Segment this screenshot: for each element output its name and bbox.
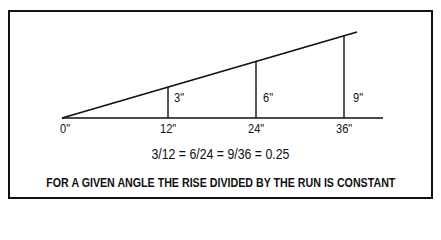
run-label-24: 24" [248, 121, 264, 136]
ratio-equation: 3/12 = 6/24 = 9/36 = 0.25 [0, 146, 441, 162]
run-label-0: 0" [60, 121, 70, 136]
caption-text: FOR A GIVEN ANGLE THE RISE DIVIDED BY TH… [46, 175, 395, 190]
run-label-12: 12" [160, 121, 176, 136]
run-label-36: 36" [336, 121, 352, 136]
ratio-equation-text: 3/12 = 6/24 = 9/36 = 0.25 [151, 146, 289, 162]
rise-label-6: 6" [263, 90, 273, 105]
slope-line [62, 32, 357, 118]
rise-label-9: 9" [353, 90, 363, 105]
rise-label-3: 3" [174, 90, 184, 105]
caption: FOR A GIVEN ANGLE THE RISE DIVIDED BY TH… [0, 175, 441, 190]
